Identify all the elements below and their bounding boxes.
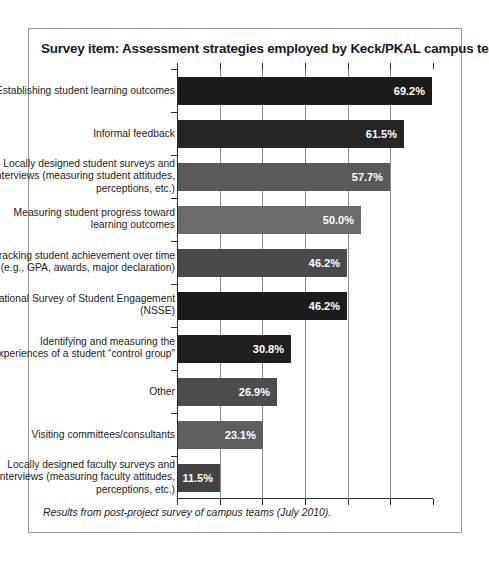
category-label: National Survey of Student Engagement (N… [0, 293, 175, 318]
axis-tick-bottom [390, 499, 391, 505]
bar-value-label: 69.2% [394, 85, 425, 97]
bar-rows: Establishing student learning outcomes69… [177, 69, 433, 499]
chart-title: Survey item: Assessment strategies emplo… [41, 41, 453, 57]
bar-row: Tracking student achievement over time (… [177, 241, 433, 284]
category-label: Informal feedback [0, 127, 175, 140]
axis-tick-bottom [305, 499, 306, 505]
category-label: Tracking student achievement over time (… [0, 250, 175, 275]
figure-page: Survey item: Assessment strategies emplo… [0, 0, 489, 569]
category-tick [171, 370, 177, 371]
bar-row: Visiting committees/consultants23.1% [177, 413, 433, 456]
plot-area: Establishing student learning outcomes69… [177, 69, 433, 499]
bar: 46.2% [178, 249, 347, 277]
bar-row: Identifying and measuring the experience… [177, 327, 433, 370]
bar-value-label: 30.8% [253, 343, 284, 355]
category-tick [171, 112, 177, 113]
bar-value-label: 61.5% [366, 128, 397, 140]
category-label: Measuring student progress toward learni… [0, 207, 175, 232]
bar-value-label: 46.2% [309, 300, 340, 312]
category-label: Visiting committees/consultants [0, 428, 175, 441]
category-label: Identifying and measuring the experience… [0, 336, 175, 361]
bar: 69.2% [178, 77, 432, 105]
bar-row: Locally designed student surveys and int… [177, 155, 433, 198]
bar: 50.0% [178, 206, 361, 234]
chart-footnote: Results from post-project survey of camp… [43, 507, 331, 518]
category-label: Locally designed student surveys and int… [0, 158, 175, 196]
bar-row: Other26.9% [177, 370, 433, 413]
chart-frame: Survey item: Assessment strategies emplo… [28, 28, 462, 533]
bar: 57.7% [178, 163, 390, 191]
bar-row: National Survey of Student Engagement (N… [177, 284, 433, 327]
category-tick [171, 456, 177, 457]
bar: 11.5% [178, 464, 220, 492]
bar-value-label: 57.7% [352, 171, 383, 183]
category-label: Locally designed faculty surveys and int… [0, 459, 175, 497]
bar: 30.8% [178, 335, 291, 363]
axis-tick-bottom [433, 499, 434, 505]
bar-value-label: 11.5% [182, 472, 213, 484]
axis-tick-bottom [177, 499, 178, 505]
category-tick [171, 241, 177, 242]
axis-tick-bottom [220, 499, 221, 505]
category-tick [171, 413, 177, 414]
axis-tick-top [433, 63, 434, 69]
bar: 23.1% [178, 421, 263, 449]
axis-tick-bottom [262, 499, 263, 505]
bar-value-label: 26.9% [239, 386, 270, 398]
bar-value-label: 50.0% [323, 214, 354, 226]
category-label: Other [0, 385, 175, 398]
category-tick [171, 198, 177, 199]
bar-row: Measuring student progress toward learni… [177, 198, 433, 241]
category-tick [171, 284, 177, 285]
category-tick [171, 155, 177, 156]
bar-row: Establishing student learning outcomes69… [177, 69, 433, 112]
bar-row: Informal feedback61.5% [177, 112, 433, 155]
bar: 46.2% [178, 292, 347, 320]
category-label: Establishing student learning outcomes [0, 84, 175, 97]
bar-value-label: 23.1% [225, 429, 256, 441]
bar-row: Locally designed faculty surveys and int… [177, 456, 433, 499]
bar: 61.5% [178, 120, 404, 148]
bar: 26.9% [178, 378, 277, 406]
category-tick [171, 69, 177, 70]
bar-value-label: 46.2% [309, 257, 340, 269]
category-tick [171, 327, 177, 328]
axis-tick-bottom [348, 499, 349, 505]
